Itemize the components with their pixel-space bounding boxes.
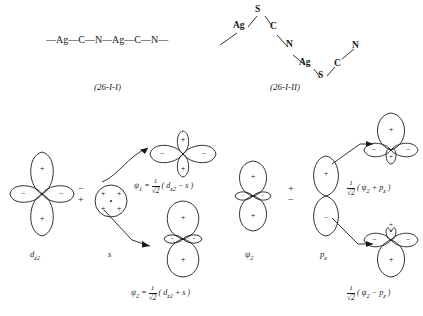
atom-label-s-top: S <box>255 4 260 14</box>
chain-structure-1-formula: —Ag—C—N—Ag—C—N— <box>46 34 168 45</box>
sign-plus-top: + <box>324 169 328 178</box>
sign-minus-left: − <box>160 149 164 158</box>
chain-structure-2: S Ag C N Ag S C N <box>215 5 360 83</box>
sign-plus-top: + <box>389 222 393 228</box>
fraction-one-over-root-two: 1 √2 <box>149 285 157 302</box>
sign-plus-top: + <box>251 172 255 181</box>
sign-minus-right: − <box>202 149 206 158</box>
sign-plus-top: + <box>181 213 185 222</box>
fraction-one-over-root-two: 1 √2 <box>347 285 355 302</box>
atom-label-c-right: C <box>334 58 341 68</box>
sign-plus-bottom: + <box>181 164 185 173</box>
sign-minus-left: − <box>241 192 245 198</box>
chain-structure-1-caption: (26-I-I) <box>94 82 121 92</box>
formula-psi2-plus-pz: 1 √2 ( ψ2 + pz ) <box>347 180 390 197</box>
sign-minus-left: − <box>170 235 174 241</box>
sign-minus-right: − <box>406 235 410 244</box>
operator-minus-glyph: − <box>78 183 84 194</box>
sign-plus-2: + <box>117 189 121 198</box>
orbital-dz2: + + − − <box>8 148 76 240</box>
sign-minus-bottom: − <box>324 213 328 222</box>
operator-plus-glyph: + <box>78 194 84 205</box>
operator-minus-glyph: − <box>288 194 294 205</box>
orbital-psi2-input: + + − − <box>222 158 284 234</box>
atom-label-ag-left: Ag <box>233 20 245 30</box>
sign-plus-bottom: + <box>389 154 393 160</box>
orbital-dz2-label: dz2 <box>30 249 40 261</box>
sign-plus-bottom: + <box>389 255 393 264</box>
sign-minus-left: − <box>21 189 25 198</box>
atom-label-s-bottom: S <box>318 70 323 80</box>
orbital-psi1: + + − − <box>147 128 219 180</box>
sign-plus-bottom: + <box>251 211 255 220</box>
operator-minus-plus: − + <box>78 183 84 205</box>
formula-psi2-minus-pz: 1 √2 ( ψ2 − pz ) <box>347 285 390 302</box>
sign-minus-left: − <box>372 145 376 154</box>
sign-minus-right: − <box>406 145 410 154</box>
sign-plus-top: + <box>181 135 185 144</box>
orbital-pz-label: pz <box>320 249 327 261</box>
orbital-psi2-input-label: ψ2 <box>245 249 254 261</box>
sign-plus-top: + <box>40 164 44 173</box>
orbital-psi2-minus-pz: + + − − <box>361 214 421 282</box>
fraction-one-over-root-two: 1 √2 <box>152 178 160 195</box>
sign-minus-right: − <box>192 235 196 241</box>
atom-label-n-right: N <box>352 40 359 50</box>
atom-label-n-middle: N <box>286 39 293 49</box>
operator-plus-glyph: + <box>288 183 294 194</box>
fraction-one-over-root-two: 1 √2 <box>347 180 355 197</box>
sign-plus-bottom: + <box>181 255 185 264</box>
orbital-psi2-left: + + − − <box>148 198 218 280</box>
operator-plus-minus: + − <box>288 183 294 205</box>
sign-plus-top: + <box>389 125 393 134</box>
sign-minus-right: − <box>261 192 265 198</box>
sign-plus-1: + <box>101 189 105 198</box>
sign-minus-left: − <box>372 235 376 244</box>
formula-psi2-left: ψ2 = 1 √2 ( dz2 + s ) <box>131 285 190 302</box>
sign-minus-right: − <box>59 189 63 198</box>
orbital-psi2-plus-pz: + + − − <box>361 110 421 176</box>
atom-label-ag-middle: Ag <box>299 57 311 67</box>
formula-psi1: ψ1 = 1 √2 ( dz2 − s ) <box>134 178 193 195</box>
sign-plus-bottom: + <box>40 214 44 223</box>
atom-label-c-upper: C <box>270 21 277 31</box>
chain-structure-2-caption: (26-I-II) <box>270 82 300 92</box>
